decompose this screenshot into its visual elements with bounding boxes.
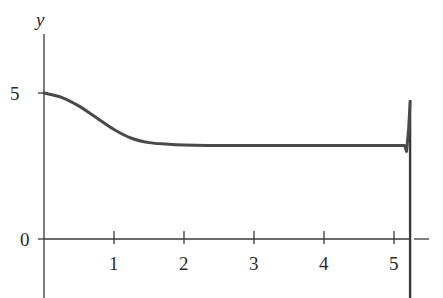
y-axis-label: y bbox=[34, 9, 45, 30]
x-tick-label-1: 1 bbox=[109, 253, 119, 274]
data-curve bbox=[44, 93, 410, 151]
x-tick-label-5: 5 bbox=[389, 253, 399, 274]
chart: y 5 0 12345 bbox=[0, 0, 443, 298]
x-tick-label-4: 4 bbox=[319, 253, 329, 274]
x-tick-label-2: 2 bbox=[179, 253, 189, 274]
x-axis: 12345 bbox=[44, 231, 429, 274]
y-tick-label-5: 5 bbox=[10, 83, 20, 104]
y-axis: y 5 0 bbox=[10, 9, 48, 298]
x-tick-label-3: 3 bbox=[249, 253, 259, 274]
y-tick-label-0: 0 bbox=[20, 229, 30, 250]
